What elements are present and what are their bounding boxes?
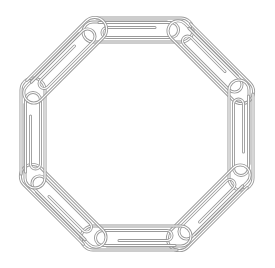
- paperclip-octagon-illustration: [0, 0, 275, 268]
- paperclip-chain-graphic: [0, 0, 275, 268]
